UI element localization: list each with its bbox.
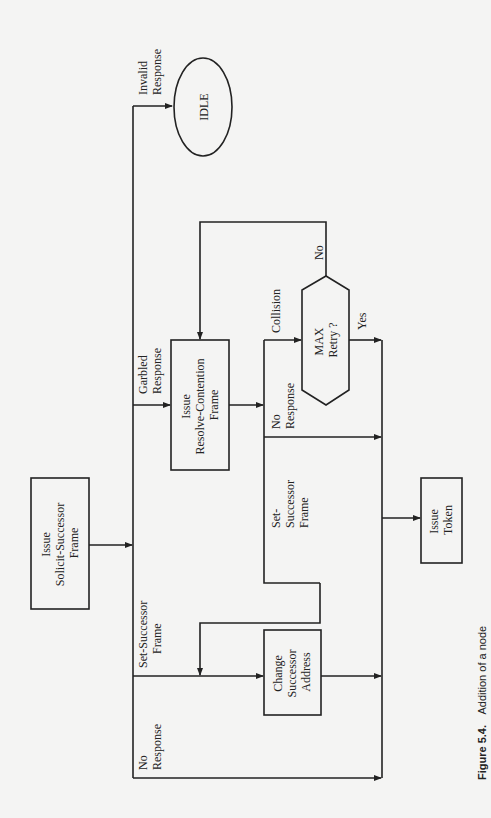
- idle-label: IDLE: [197, 93, 211, 120]
- change-label: Change Successor Address: [271, 647, 313, 698]
- flowchart: IDLE Issue Solicit-Successor Frame Issue…: [0, 0, 491, 818]
- label-retry-yes: Yes: [355, 312, 369, 330]
- figure-caption: Figure 5.4. Addition of a node: [476, 626, 488, 780]
- label-retry-no: No: [312, 245, 326, 260]
- label-resolve-set-successor: Set- Successor Frame: [269, 477, 311, 528]
- token-label: Issue Token: [427, 505, 455, 535]
- label-resolve-no-response: No Response: [269, 383, 297, 429]
- max-retry-label: MAX Retry ?: [312, 323, 340, 358]
- label-invalid-response: Invalid Response: [136, 49, 164, 95]
- label-set-successor-main: Set-Successor Frame: [136, 598, 164, 668]
- label-garbled-response: Garbled Response: [136, 348, 164, 394]
- label-no-response-main: No Response: [136, 724, 164, 770]
- label-collision: Collision: [269, 289, 283, 333]
